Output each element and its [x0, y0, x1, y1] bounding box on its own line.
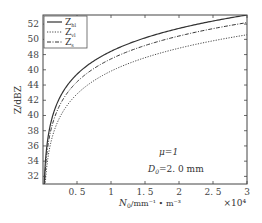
- x-tick-label: 1: [108, 187, 114, 197]
- x-tick-label: 1. 5: [136, 187, 153, 197]
- y-tick-label: 50: [28, 34, 40, 44]
- annotations: μ=1 D0=2. 0 mm: [147, 147, 204, 175]
- y-tick-label: 36: [28, 141, 40, 151]
- x-multiplier: ×10⁴: [223, 198, 246, 208]
- y-tick-label: 44: [28, 80, 40, 90]
- annotation-d0: D0=2. 0 mm: [147, 164, 204, 175]
- x-tick-label: 3: [244, 187, 250, 197]
- y-tick-label: 38: [28, 126, 40, 136]
- y-tick-label: 32: [28, 171, 39, 181]
- y-axis-label: Z/dBZ: [13, 86, 23, 114]
- legend: ZhlZvlZs: [44, 16, 87, 48]
- x-tick-label: 2. 5: [204, 187, 221, 197]
- x-tick-label: 0. 5: [68, 187, 85, 197]
- chart: 3234363840424440485052 0. 511. 522. 53 Z…: [0, 0, 262, 223]
- annotation-mu: μ=1: [159, 147, 178, 157]
- x-axis-label: N0/mm⁻¹ • m⁻³: [118, 198, 181, 209]
- y-tick-label: 40: [28, 65, 40, 75]
- y-tick-label: 34: [28, 156, 40, 166]
- y-tick-label: 42: [28, 95, 39, 105]
- x-tick-label: 2: [176, 187, 182, 197]
- y-tick-label: 48: [28, 50, 40, 60]
- y-tick-label: 40: [28, 110, 40, 120]
- y-tick-label: 52: [28, 19, 39, 29]
